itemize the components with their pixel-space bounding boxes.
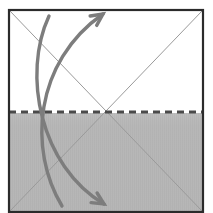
diagram-canvas	[0, 0, 213, 213]
lower-half-shading	[9, 113, 203, 212]
origami-diagram	[0, 0, 213, 213]
